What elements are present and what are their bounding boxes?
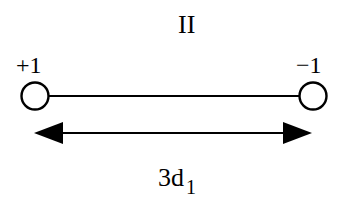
arrow-left-head-icon [34, 122, 63, 144]
distance-base: 3d [158, 163, 184, 192]
distance-subscript: 1 [186, 176, 196, 198]
right-node-label: −1 [296, 53, 322, 77]
arrow-right-head-icon [283, 122, 312, 144]
diagram-title: II [178, 12, 195, 38]
distance-label: 3d1 [158, 165, 196, 191]
left-node-label: +1 [16, 53, 42, 77]
dipole-diagram: II +1 −1 3d1 [0, 0, 346, 201]
right-node-circle [300, 83, 327, 110]
left-node-circle [22, 83, 49, 110]
